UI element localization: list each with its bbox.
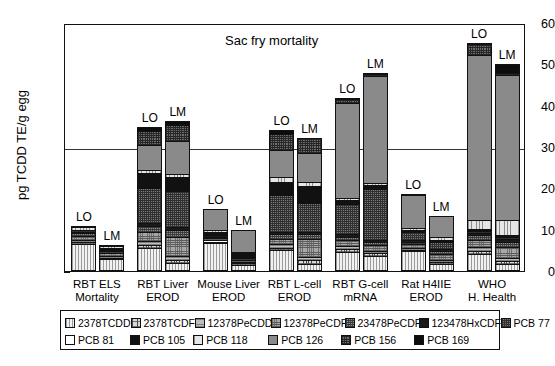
bar-segment-12378pecdf xyxy=(270,239,293,244)
bar-rbt-g-cell-mrna-lo[interactable] xyxy=(335,98,360,271)
bar-segment-pcb-77 xyxy=(336,204,359,235)
bar-segment-pcb-77 xyxy=(138,188,161,223)
bar-segment-12378pecdf xyxy=(138,232,161,241)
bar-segment-2378tcdf xyxy=(496,261,519,264)
bar-segment-pcb-118 xyxy=(468,220,491,229)
legend-item-pcb-156[interactable]: PCB 156 xyxy=(341,335,414,346)
legend-label: 2378TCDF xyxy=(144,318,195,329)
bar-rat-h4iie-erod-lo[interactable] xyxy=(401,194,426,271)
bar-segment-23478pecdf xyxy=(204,237,227,239)
bar-segment-pcb-118 xyxy=(204,230,227,232)
bar-segment-2378tcdf xyxy=(364,253,387,255)
bar-rbt-g-cell-mrna-lm[interactable] xyxy=(363,73,388,271)
bar-rbt-liver-erod-lo[interactable] xyxy=(137,127,162,271)
bar-label-lo: LO xyxy=(134,111,165,125)
bar-segment-pcb-126 xyxy=(138,145,161,170)
bar-segment-pcb-169 xyxy=(270,130,293,134)
y-tick-mark-0 xyxy=(64,272,70,273)
bar-segment-pcb-156 xyxy=(468,44,491,55)
bar-segment-2378tcdf xyxy=(100,258,123,260)
legend-item-23478pecdf[interactable]: 23478PeCDF xyxy=(345,318,419,329)
bar-segment-2378tcdf xyxy=(138,245,161,248)
legend-item-12378pecdf[interactable]: 12378PeCDF xyxy=(271,318,345,329)
legend-item-pcb-169[interactable]: PCB 169 xyxy=(414,335,495,346)
bar-segment-pcb-169 xyxy=(468,43,491,44)
bar-segment-12378pecdf xyxy=(336,240,359,246)
bar-segment-pcb-156 xyxy=(298,138,321,153)
legend-swatch-icon xyxy=(501,318,511,328)
bar-rbt-els-mortality-lm[interactable] xyxy=(99,245,124,271)
legend-item-pcb-77[interactable]: PCB 77 xyxy=(501,318,549,329)
bar-segment-12378pecdf xyxy=(402,244,425,247)
legend-item-2378tcdf[interactable]: 2378TCDF xyxy=(131,318,195,329)
bar-label-lm: LM xyxy=(228,214,259,228)
bar-segment-123478hxcdf xyxy=(364,240,387,242)
bar-label-lm: LM xyxy=(96,229,127,243)
chart-title: Sac fry mortality xyxy=(225,33,318,48)
bar-segment-pcb-156 xyxy=(336,99,359,103)
bar-segment-123478hxcdf xyxy=(468,233,491,235)
bar-rbt-liver-erod-lm[interactable] xyxy=(165,121,190,271)
bar-segment-123478hxcdf xyxy=(430,249,453,251)
bar-segment-pcb-105 xyxy=(402,230,425,232)
bar-segment-2378tcdd xyxy=(402,251,425,270)
legend-item-pcb-126[interactable]: PCB 126 xyxy=(268,335,341,346)
bar-segment-pcb-77 xyxy=(204,234,227,235)
bar-segment-pcb-126 xyxy=(298,153,321,182)
bar-segment-pcb-118 xyxy=(364,183,387,185)
bar-segment-pcb-126 xyxy=(72,226,95,227)
bar-segment-12378pecdf xyxy=(298,239,321,256)
bar-rbt-l-cell-erod-lm[interactable] xyxy=(297,138,322,271)
bar-segment-pcb-77 xyxy=(298,203,321,232)
legend-item-12378pecdd[interactable]: 12378PeCDD xyxy=(195,318,271,329)
y-axis-title: pg TCDD TE/g egg xyxy=(14,90,29,200)
legend-label: 23478PeCDF xyxy=(358,318,422,329)
bar-segment-pcb-126 xyxy=(468,55,491,220)
bar-segment-2378tcdd xyxy=(336,252,359,270)
legend-item-2378tcdd[interactable]: 2378TCDD xyxy=(65,318,131,329)
legend-label: PCB 105 xyxy=(143,335,185,346)
legend-label: PCB 169 xyxy=(427,335,469,346)
legend-row-2: PCB 81PCB 105PCB 118PCB 126PCB 156PCB 16… xyxy=(65,332,495,348)
legend-swatch-icon xyxy=(271,318,281,328)
bar-segment-12378pecdd xyxy=(72,240,95,242)
bar-segment-2378tcdf xyxy=(402,250,425,252)
bar-segment-2378tcdd xyxy=(364,256,387,270)
bar-segment-pcb-77 xyxy=(166,191,189,227)
bar-who-h-health-lo[interactable] xyxy=(467,43,492,271)
bar-segment-12378pecdd xyxy=(166,256,189,259)
bar-segment-2378tcdf xyxy=(430,262,453,264)
legend-swatch-icon xyxy=(65,335,75,345)
bar-rat-h4iie-erod-lm[interactable] xyxy=(429,216,454,271)
legend-item-123478hxcdf[interactable]: 123478HxCDF xyxy=(419,318,501,329)
bar-segment-2378tcdd xyxy=(204,243,227,270)
bar-mouse-liver-erod-lm[interactable] xyxy=(231,230,256,271)
bar-who-h-health-lm[interactable] xyxy=(495,64,520,271)
legend-swatch-icon xyxy=(414,335,424,345)
bar-segment-pcb-118 xyxy=(138,170,161,174)
bar-segment-2378tcdd xyxy=(138,248,161,270)
bar-segment-2378tcdd xyxy=(232,265,255,270)
bar-segment-2378tcdf xyxy=(166,260,189,264)
legend-item-pcb-105[interactable]: PCB 105 xyxy=(130,335,193,346)
bar-rbt-els-mortality-lo[interactable] xyxy=(71,226,96,271)
bar-mouse-liver-erod-lo[interactable] xyxy=(203,209,228,271)
legend: 2378TCDD2378TCDF12378PeCDD12378PeCDF2347… xyxy=(60,310,500,350)
bar-segment-12378pecdd xyxy=(496,258,519,262)
bar-rbt-l-cell-erod-lo[interactable] xyxy=(269,130,294,271)
bar-segment-pcb-105 xyxy=(166,177,189,191)
bar-segment-123478hxcdf xyxy=(402,240,425,242)
bar-segment-pcb-126 xyxy=(430,216,453,237)
legend-item-pcb-81[interactable]: PCB 81 xyxy=(65,335,130,346)
bar-segment-12378pecdd xyxy=(336,246,359,249)
bar-segment-pcb-118 xyxy=(72,227,95,229)
legend-swatch-icon xyxy=(65,318,75,328)
bar-segment-2378tcdf xyxy=(232,263,255,264)
legend-item-pcb-118[interactable]: PCB 118 xyxy=(193,335,268,346)
legend-swatch-icon xyxy=(341,335,351,345)
legend-label: 123478HxCDF xyxy=(432,318,501,329)
bar-segment-2378tcdd xyxy=(298,264,321,270)
bar-segment-pcb-77 xyxy=(496,237,519,239)
bar-segment-pcb-156 xyxy=(496,73,519,75)
plot-area: LOLMLOLMLOLMLOLMLOLMLOLMLOLM Sac fry mor… xyxy=(64,24,525,272)
